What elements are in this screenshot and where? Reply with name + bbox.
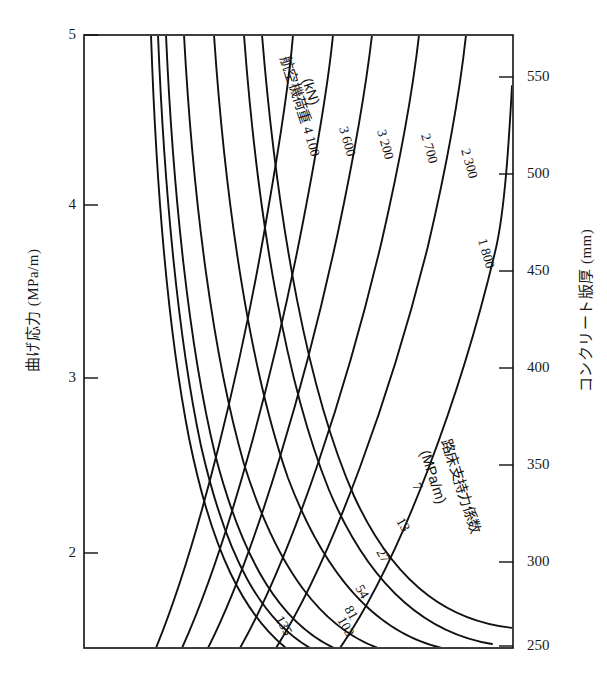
curve-label-27: 27 [373, 546, 393, 565]
aircraft-load-curve-family [156, 35, 512, 648]
subgrade-reaction-curve-family [151, 35, 513, 648]
aircraft-load-curve-4100[interactable] [156, 35, 293, 648]
curve-label-2300: 2 300 [458, 147, 481, 181]
curve-label-13: 13 [393, 515, 413, 534]
curve-label-3200: 3 200 [374, 128, 397, 162]
aircraft-load-curve-1800[interactable] [340, 86, 512, 648]
subgrade-curve-27[interactable] [214, 35, 442, 648]
right-tick-marks [499, 77, 513, 646]
curve-label-2700: 2 700 [418, 132, 441, 166]
subgrade-curve-103[interactable] [158, 35, 310, 648]
curve-label-3600: 3 600 [336, 125, 359, 159]
plot-area: 航空機荷重 (kN) 4 100 3 600 3 200 2 700 2 300… [0, 0, 607, 678]
left-tick-marks [84, 35, 98, 553]
curve-label-1800: 1 800 [475, 237, 498, 271]
chart-canvas: 曲げ応力 (MPa/m) コンクリート版厚 (mm) 5 4 3 2 550 5… [0, 0, 607, 678]
plot-frame [84, 35, 513, 648]
curve-label-7: 7 [409, 480, 425, 494]
